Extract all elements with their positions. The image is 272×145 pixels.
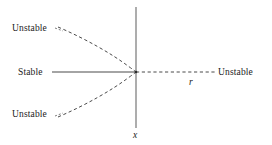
- leader-line-top: [55, 28, 63, 31]
- axis-label-x: x: [133, 131, 137, 141]
- axis-label-r: r: [189, 78, 193, 88]
- bifurcation-diagram-figure: Unstable Stable Unstable Unstable r x: [0, 0, 272, 145]
- label-stable: Stable: [18, 68, 43, 78]
- leader-line-bottom: [55, 113, 63, 116]
- unstable-branch-lower-curve: [58, 72, 136, 117]
- label-unstable-top: Unstable: [12, 24, 47, 34]
- bifurcation-point-marker: [135, 71, 138, 74]
- label-unstable-bottom: Unstable: [12, 110, 47, 120]
- unstable-branch-upper-curve: [58, 27, 136, 72]
- label-unstable-right: Unstable: [218, 68, 253, 78]
